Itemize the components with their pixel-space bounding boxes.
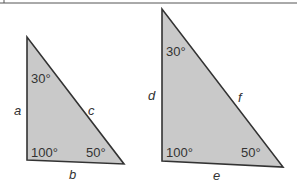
triangle-1-side-a: a <box>14 104 21 117</box>
triangle-2-side-f: f <box>238 91 242 104</box>
triangle-2-side-d: d <box>148 89 155 102</box>
triangle-2-bottom-left-angle: 100° <box>166 146 193 159</box>
triangle-2-top-angle: 30° <box>166 45 186 58</box>
triangle-1-side-c: c <box>88 104 95 117</box>
triangle-2-bottom-right-angle: 50° <box>241 146 261 159</box>
triangle-1-side-b: b <box>69 168 76 181</box>
triangle-1-bottom-right-angle: 50° <box>86 146 106 159</box>
triangle-1-bottom-left-angle: 100° <box>31 146 58 159</box>
triangle-1-top-angle: 30° <box>31 72 51 85</box>
triangle-2-shape <box>162 9 283 167</box>
triangle-2-side-e: e <box>213 169 220 182</box>
